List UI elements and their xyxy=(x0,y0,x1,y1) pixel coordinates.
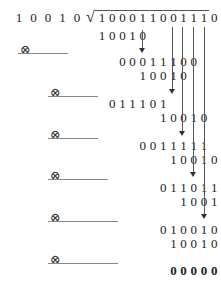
digit: 0 xyxy=(117,11,127,25)
xor-icon: ⊗ xyxy=(50,128,61,141)
digit: 0 xyxy=(209,11,219,25)
digit: 0 xyxy=(117,55,127,69)
digit: 0 xyxy=(199,264,209,278)
bring-down-line-1 xyxy=(142,30,143,48)
bring-down-line-4 xyxy=(193,27,194,172)
digit: 0 xyxy=(107,11,117,25)
digit: 1 xyxy=(158,55,168,69)
digit: 1 xyxy=(128,97,138,111)
digit: 0 xyxy=(179,153,189,167)
digit: 0 xyxy=(179,55,189,69)
digit: 0 xyxy=(128,55,138,69)
digit: 1 xyxy=(168,139,178,153)
bring-down-line-3 xyxy=(182,27,183,131)
xor-icon: ⊗ xyxy=(50,169,61,182)
digit: 0 xyxy=(179,69,189,83)
digit: 0 xyxy=(148,139,158,153)
digit: 1 xyxy=(179,139,189,153)
xor-underline xyxy=(18,53,68,54)
digit: 1 xyxy=(168,153,178,167)
digit: 1 xyxy=(199,223,209,237)
divisor-digit: 1 xyxy=(14,11,24,25)
digit: 1 xyxy=(199,237,209,251)
digit: 0 xyxy=(209,237,219,251)
digit: 0 xyxy=(148,69,158,83)
digit: 1 xyxy=(128,29,138,43)
digit: 0 xyxy=(189,181,199,195)
xor-icon: ⊗ xyxy=(50,253,61,266)
digit: 1 xyxy=(97,11,107,25)
digit: 0 xyxy=(189,223,199,237)
divisor-digit: 1 xyxy=(58,11,68,25)
digit: 1 xyxy=(117,97,127,111)
division-radical-icon: √ xyxy=(86,9,95,25)
bring-down-line-2 xyxy=(172,27,173,89)
digit: 1 xyxy=(158,111,168,125)
digit: 0 xyxy=(189,237,199,251)
digit: 0 xyxy=(128,11,138,25)
digit: 0 xyxy=(179,223,189,237)
xor-icon: ⊗ xyxy=(50,86,61,99)
digit: 1 xyxy=(179,181,189,195)
digit: 1 xyxy=(158,97,168,111)
digit: 0 xyxy=(138,55,148,69)
digit: 0 xyxy=(189,195,199,209)
division-diagram: 10010 √ 100011001110 10010⊗0001110010010… xyxy=(0,0,221,283)
xor-underline xyxy=(48,96,98,97)
digit: 1 xyxy=(168,55,178,69)
divisor-digit: 0 xyxy=(43,11,53,25)
digit: 1 xyxy=(158,139,168,153)
digit: 0 xyxy=(148,97,158,111)
arrow-down-icon xyxy=(201,214,207,219)
digit: 1 xyxy=(168,69,178,83)
digit: 1 xyxy=(209,181,219,195)
divisor-digit: 0 xyxy=(29,11,39,25)
digit: 1 xyxy=(179,195,189,209)
digit: 1 xyxy=(168,223,178,237)
xor-icon: ⊗ xyxy=(20,43,31,56)
digit: 1 xyxy=(97,29,107,43)
digit: 0 xyxy=(168,11,178,25)
digit: 1 xyxy=(168,237,178,251)
digit: 0 xyxy=(168,264,178,278)
arrow-down-icon xyxy=(139,48,145,53)
digit: 0 xyxy=(179,111,189,125)
digit: 0 xyxy=(107,29,117,43)
digit: 0 xyxy=(209,153,219,167)
digit: 1 xyxy=(148,55,158,69)
bring-down-line-5 xyxy=(204,27,205,214)
digit: 1 xyxy=(148,11,158,25)
digit: 0 xyxy=(209,264,219,278)
xor-underline xyxy=(48,138,98,139)
digit: 1 xyxy=(179,11,189,25)
digit: 1 xyxy=(168,181,178,195)
digit: 0 xyxy=(209,223,219,237)
digit: 1 xyxy=(189,11,199,25)
xor-underline xyxy=(48,179,108,180)
xor-underline xyxy=(48,221,118,222)
digit: 0 xyxy=(158,11,168,25)
digit: 0 xyxy=(219,195,221,209)
digit: 0 xyxy=(158,181,168,195)
xor-icon: ⊗ xyxy=(50,211,61,224)
arrow-down-icon xyxy=(190,172,196,177)
digit: 1 xyxy=(138,69,148,83)
digit: 0 xyxy=(138,139,148,153)
divisor-digit: 0 xyxy=(72,11,82,25)
digit: 0 xyxy=(179,264,189,278)
digit: 1 xyxy=(199,11,209,25)
digit: 1 xyxy=(138,11,148,25)
digit: 0 xyxy=(158,69,168,83)
digit: 1 xyxy=(209,195,219,209)
digit: 0 xyxy=(117,29,127,43)
digit: 1 xyxy=(138,97,148,111)
digit: 0 xyxy=(107,97,117,111)
digit: 0 xyxy=(158,223,168,237)
digit: 0 xyxy=(189,264,199,278)
digit: 0 xyxy=(179,237,189,251)
arrow-down-icon xyxy=(179,131,185,136)
digit: 0 xyxy=(168,111,178,125)
arrow-down-icon xyxy=(169,89,175,94)
xor-underline xyxy=(48,263,118,264)
